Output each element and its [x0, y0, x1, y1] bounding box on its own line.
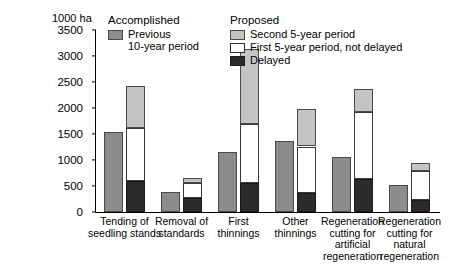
bar-accomplished-previous-10-year — [275, 141, 294, 212]
bar-proposed-stack — [411, 163, 430, 212]
bar-accomplished-previous-10-year — [218, 152, 237, 212]
y-axis-tick-label: 3500 — [57, 24, 83, 36]
bar-proposed-stack — [297, 109, 316, 212]
bar-segment-first-5-year — [297, 147, 316, 193]
x-axis-category-label: Regeneration cutting for natural regener… — [372, 216, 447, 262]
bar-segment-delayed — [411, 200, 430, 212]
legend-item-first-5-year: First 5-year period, not delayed — [230, 41, 402, 53]
legend-item-previous-10-year: Previous 10-year period — [108, 28, 199, 52]
bar-accomplished-previous-10-year — [161, 192, 180, 212]
bar-segment-second-5-year — [354, 89, 373, 112]
legend-item-label: First 5-year period, not delayed — [250, 41, 402, 53]
legend-accomplished: Accomplished Previous 10-year period — [108, 14, 199, 53]
bar-accomplished-previous-10-year — [389, 185, 408, 212]
bar-group — [161, 30, 202, 212]
bar-group — [104, 30, 145, 212]
bar-segment-delayed — [240, 183, 259, 212]
x-axis-line — [95, 212, 440, 213]
second-5-year-swatch — [230, 30, 245, 40]
bar-accomplished-previous-10-year — [332, 157, 351, 212]
legend-item-label: Second 5-year period — [250, 28, 355, 40]
bar-segment-second-5-year — [297, 109, 316, 147]
y-axis-tick-label: 2500 — [57, 76, 83, 88]
bar-chart: 1000 ha 0500100015002000250030003500 Ten… — [0, 0, 457, 266]
bar-segment-delayed — [126, 181, 145, 212]
delayed-swatch — [230, 56, 245, 66]
bar-proposed-stack — [354, 89, 373, 212]
first-5-year-swatch — [230, 43, 245, 53]
legend-accomplished-title: Accomplished — [108, 14, 199, 26]
legend-item-label: Previous 10-year period — [128, 28, 199, 52]
bar-segment-delayed — [297, 193, 316, 212]
bar-segment-second-5-year — [183, 178, 202, 184]
legend-proposed: Proposed Second 5-year period First 5-ye… — [230, 14, 402, 68]
y-axis-tick-label: 500 — [64, 180, 83, 192]
bar-proposed-stack — [240, 49, 259, 212]
bar-segment-second-5-year — [411, 163, 430, 171]
bar-segment-delayed — [183, 198, 202, 212]
bar-segment-first-5-year — [126, 128, 145, 181]
bar-segment-second-5-year — [126, 86, 145, 128]
bar-segment-first-5-year — [354, 112, 373, 179]
legend-item-second-5-year: Second 5-year period — [230, 28, 402, 40]
bar-segment-first-5-year — [240, 124, 259, 183]
previous-10-year-swatch — [108, 30, 123, 40]
y-axis-tick-label: 3000 — [57, 50, 83, 62]
y-axis-tick-label: 1500 — [57, 128, 83, 140]
bar-segment-first-5-year — [183, 183, 202, 198]
legend-proposed-title: Proposed — [230, 14, 402, 26]
bar-accomplished-previous-10-year — [104, 132, 123, 212]
bar-proposed-stack — [183, 178, 202, 212]
y-axis-tick-label: 1000 — [57, 154, 83, 166]
legend-item-label: Delayed — [250, 54, 290, 66]
bar-segment-first-5-year — [411, 171, 430, 200]
legend-item-delayed: Delayed — [230, 54, 402, 66]
y-axis-tick-label: 2000 — [57, 102, 83, 114]
y-axis-tick-label: 0 — [77, 206, 83, 218]
y-axis-unit-label: 1000 ha — [52, 12, 92, 24]
bar-proposed-stack — [126, 86, 145, 212]
bar-segment-delayed — [354, 179, 373, 212]
